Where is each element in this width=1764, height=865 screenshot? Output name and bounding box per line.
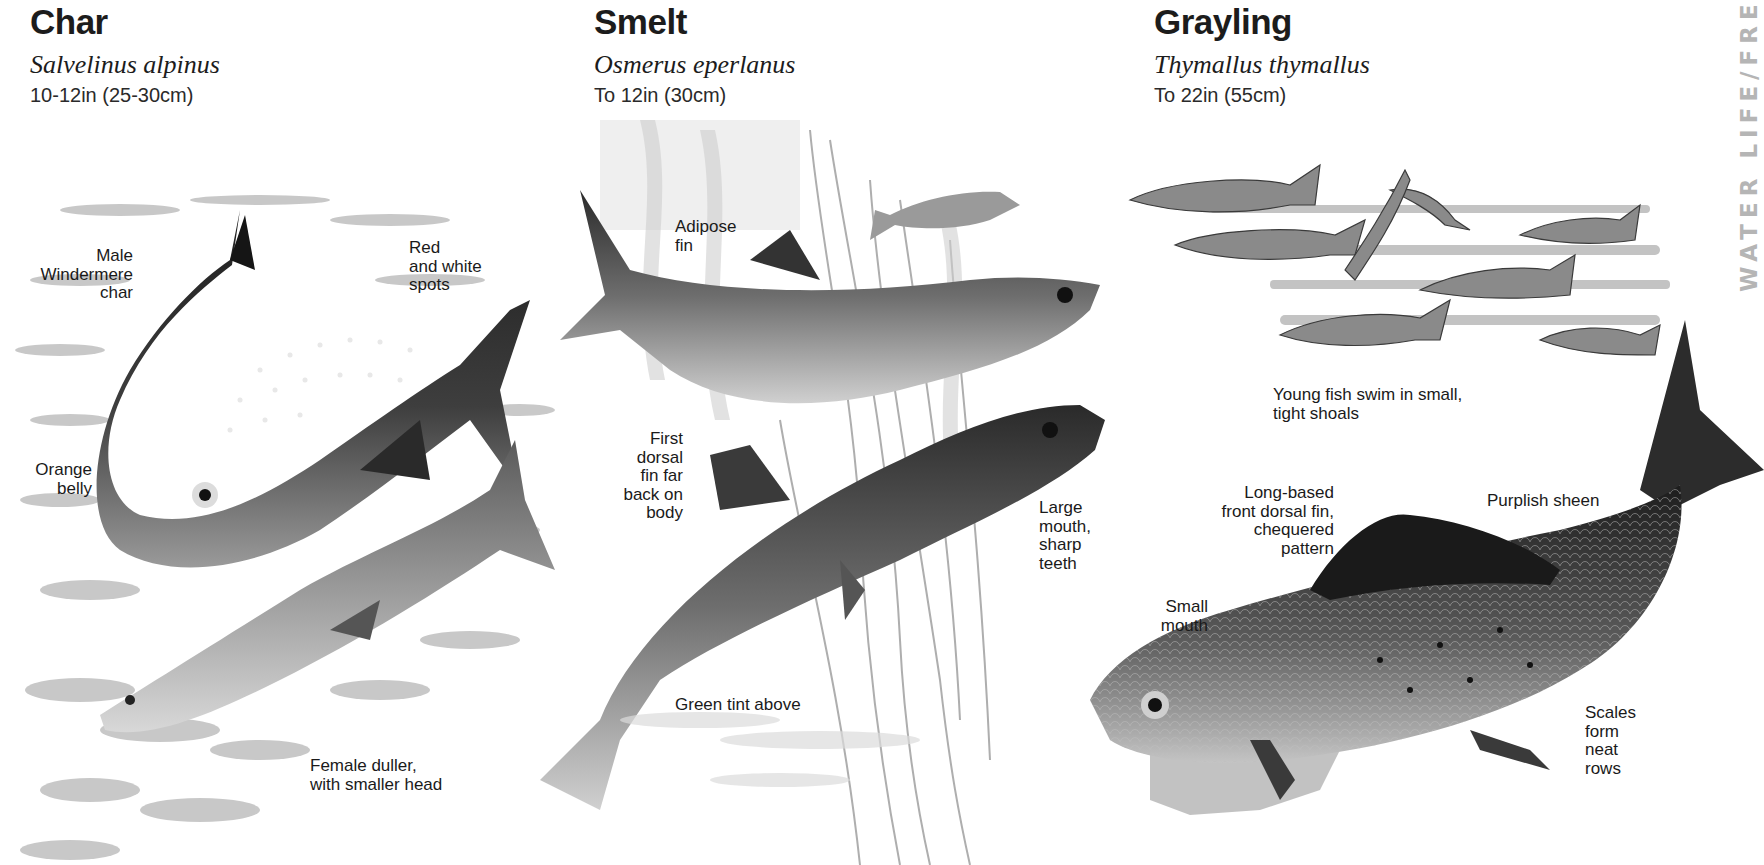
label-orange-belly: Orange belly: [20, 461, 92, 498]
label-female-duller: Female duller, with smaller head: [310, 757, 442, 794]
common-name-char: Char: [30, 2, 108, 42]
label-scales-neat-rows: Scales form neat rows: [1585, 704, 1636, 778]
label-green-tint: Green tint above: [675, 696, 801, 715]
label-young-fish-shoals: Young fish swim in small, tight shoals: [1273, 386, 1462, 423]
side-banner: WATER LIFE/FRE: [1736, 0, 1764, 300]
latin-name-smelt: Osmerus eperlanus: [594, 50, 796, 80]
label-red-white-spots: Red and white spots: [409, 239, 482, 295]
label-long-based-dorsal-fin: Long-based front dorsal fin, chequered p…: [1170, 484, 1334, 558]
label-purplish-sheen: Purplish sheen: [1487, 492, 1599, 511]
common-name-grayling: Grayling: [1154, 2, 1292, 42]
label-adipose-fin: Adipose fin: [675, 218, 736, 255]
side-banner-text: WATER LIFE/FRE: [1736, 0, 1762, 292]
size-char: 10-12in (25-30cm): [30, 84, 193, 107]
label-first-dorsal-fin: First dorsal fin far back on body: [600, 430, 683, 523]
size-grayling: To 22in (55cm): [1154, 84, 1286, 107]
latin-name-char: Salvelinus alpinus: [30, 50, 220, 80]
label-male-windermere-char: Male Windermere char: [40, 247, 133, 303]
label-small-mouth: Small mouth: [1140, 598, 1208, 635]
latin-name-grayling: Thymallus thymallus: [1154, 50, 1370, 80]
common-name-smelt: Smelt: [594, 2, 687, 42]
size-smelt: To 12in (30cm): [594, 84, 726, 107]
